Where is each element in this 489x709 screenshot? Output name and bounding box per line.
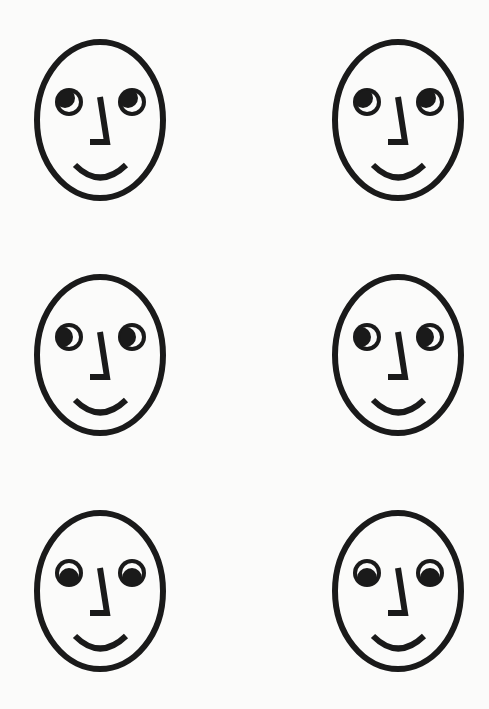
right-eye-icon <box>416 88 444 116</box>
face-2-1 <box>20 267 180 447</box>
nose-icon <box>388 97 405 142</box>
right-eye-icon <box>416 559 444 588</box>
left-eye-icon <box>353 88 381 116</box>
face-2-2 <box>318 267 478 447</box>
face-1-2 <box>318 32 478 212</box>
mouth-icon <box>373 636 424 649</box>
left-eye-icon <box>351 323 381 351</box>
face-1-1 <box>20 32 180 212</box>
mouth-icon <box>75 636 126 649</box>
right-eye-icon <box>118 559 146 588</box>
mouth-icon <box>75 400 126 413</box>
nose-icon <box>388 332 405 377</box>
nose-icon <box>90 97 107 142</box>
right-eye-icon <box>118 88 146 116</box>
left-eye-icon <box>353 559 381 588</box>
mouth-icon <box>373 400 424 413</box>
nose-icon <box>388 568 405 613</box>
nose-icon <box>90 568 107 613</box>
face-3-2 <box>318 503 478 683</box>
mouth-icon <box>75 165 126 178</box>
left-eye-icon <box>55 559 83 588</box>
left-eye-icon <box>55 88 83 116</box>
nose-icon <box>90 332 107 377</box>
mouth-icon <box>373 165 424 178</box>
right-eye-icon <box>414 323 444 351</box>
face-3-1 <box>20 503 180 683</box>
right-eye-icon <box>116 323 146 351</box>
left-eye-icon <box>53 323 83 351</box>
